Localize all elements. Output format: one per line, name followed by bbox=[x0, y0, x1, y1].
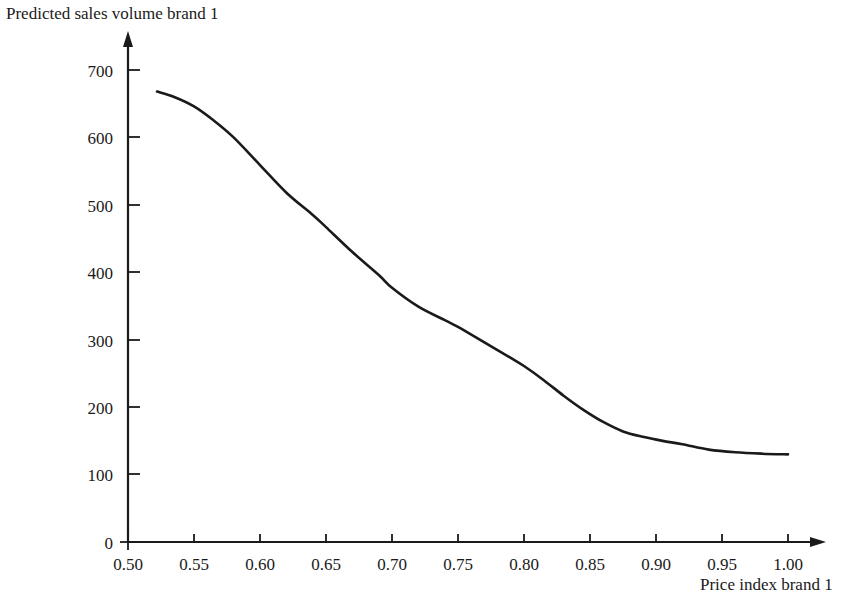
x-tick-label: 0.70 bbox=[377, 555, 407, 574]
y-tick-label: 600 bbox=[88, 129, 114, 148]
x-tick-label: 0.85 bbox=[575, 555, 605, 574]
y-tick-label: 400 bbox=[88, 264, 114, 283]
x-tick-label: 0.80 bbox=[509, 555, 539, 574]
x-axis-arrow-icon bbox=[810, 537, 826, 547]
plot-area: 0 100 200 300 400 500 600 700 0.50 0.55 bbox=[0, 0, 864, 607]
x-tick-label: 0.50 bbox=[113, 555, 143, 574]
data-series-line bbox=[157, 92, 788, 455]
x-tick-label: 0.65 bbox=[311, 555, 341, 574]
y-tick-label: 300 bbox=[88, 332, 114, 351]
y-tick-label: 200 bbox=[88, 399, 114, 418]
y-tick-label: 700 bbox=[88, 62, 114, 81]
y-tick-label: 100 bbox=[88, 466, 114, 485]
y-axis bbox=[123, 31, 133, 542]
x-tick-label: 0.60 bbox=[245, 555, 275, 574]
x-tick-label: 0.55 bbox=[179, 555, 209, 574]
y-axis-arrow-icon bbox=[123, 31, 133, 47]
y-tick-marks bbox=[120, 70, 140, 542]
y-tick-label: 0 bbox=[105, 534, 114, 553]
x-tick-labels: 0.50 0.55 0.60 0.65 0.70 0.75 0.80 0.85 … bbox=[113, 555, 803, 574]
x-tick-label: 0.95 bbox=[707, 555, 737, 574]
chart-canvas: Predicted sales volume brand 1 0 100 200 bbox=[0, 0, 864, 607]
x-tick-label: 0.75 bbox=[443, 555, 473, 574]
x-axis-title: Price index brand 1 bbox=[700, 575, 833, 595]
x-tick-label: 0.90 bbox=[641, 555, 671, 574]
x-tick-label: 1.00 bbox=[773, 555, 803, 574]
y-tick-labels: 0 100 200 300 400 500 600 700 bbox=[88, 62, 114, 553]
y-tick-label: 500 bbox=[88, 197, 114, 216]
